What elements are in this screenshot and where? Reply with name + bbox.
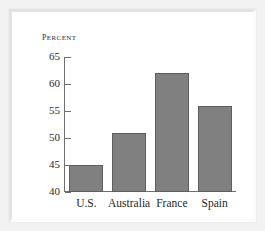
y-tick-label: 60 — [49, 77, 60, 89]
x-tick-label: Spain — [202, 197, 228, 209]
y-axis-title: Percent — [42, 30, 76, 42]
y-tick-label: 55 — [49, 104, 60, 116]
figure-frame: Percent 656055504540 U.S.AustraliaFrance… — [9, 9, 256, 222]
bar-group-australia[interactable]: Australia — [112, 57, 146, 192]
bar-group-u-s[interactable]: U.S. — [69, 57, 103, 192]
bar[interactable] — [198, 106, 232, 192]
y-tick-label: 40 — [49, 185, 60, 197]
y-tick-40: 40 — [65, 192, 71, 193]
x-tick-label: U.S. — [76, 197, 96, 209]
figure-root: Percent 656055504540 U.S.AustraliaFrance… — [0, 0, 265, 231]
x-tick-label: Australia — [108, 197, 150, 209]
bar-group-france[interactable]: France — [155, 57, 189, 192]
bar[interactable] — [69, 165, 103, 192]
bars-layer: U.S.AustraliaFranceSpain — [65, 57, 236, 192]
y-tick-label: 45 — [49, 158, 60, 170]
y-tick-label: 65 — [49, 50, 60, 62]
plot-panel: Percent 656055504540 U.S.AustraliaFrance… — [12, 12, 253, 219]
x-tick-label: France — [156, 197, 187, 209]
bar[interactable] — [155, 73, 189, 192]
y-tick-mark — [65, 192, 71, 193]
bar-group-spain[interactable]: Spain — [198, 57, 232, 192]
bar[interactable] — [112, 133, 146, 192]
y-tick-label: 50 — [49, 131, 60, 143]
